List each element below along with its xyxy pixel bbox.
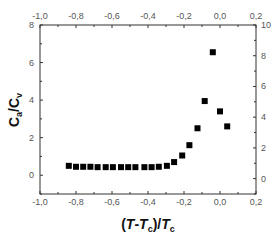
data-point-marker — [156, 164, 162, 170]
plot-border — [40, 25, 256, 194]
data-point-marker — [110, 164, 116, 170]
x-tick-label: -0,8 — [68, 197, 84, 207]
y-right-tick-label: 6 — [261, 81, 266, 91]
y-right-tick-label: 4 — [261, 112, 266, 122]
top-x-tick-label: -0,2 — [176, 11, 192, 21]
axis-ticks — [40, 25, 256, 194]
x-tick-label: -1,0 — [32, 197, 48, 207]
data-points — [66, 49, 230, 170]
y-left-tick-label: 6 — [29, 58, 34, 68]
data-point-marker — [186, 142, 192, 148]
data-point-marker — [164, 163, 170, 169]
data-point-marker — [73, 164, 79, 170]
data-point-marker — [118, 164, 124, 170]
data-point-marker — [87, 164, 93, 170]
data-point-marker — [202, 98, 208, 104]
data-point-marker — [95, 164, 101, 170]
data-point-marker — [125, 164, 131, 170]
top-x-tick-label: 0,0 — [214, 11, 227, 21]
data-point-marker — [149, 164, 155, 170]
y-right-tick-label: 0 — [261, 174, 266, 184]
data-point-marker — [210, 49, 216, 55]
top-x-tick-label: -0,6 — [104, 11, 120, 21]
y-left-tick-label: 2 — [29, 133, 34, 143]
top-x-tick-label: -0,4 — [140, 11, 156, 21]
data-point-marker — [66, 163, 72, 169]
data-point-marker — [217, 108, 223, 114]
data-point-marker — [195, 125, 201, 131]
y-right-tick-label: 10 — [261, 20, 271, 30]
data-point-marker — [80, 164, 86, 170]
y-right-tick-label: 2 — [261, 143, 266, 153]
chart: -1,0-1,0-0,8-0,8-0,6-0,6-0,4-0,4-0,2-0,2… — [0, 0, 277, 241]
y-left-tick-label: 4 — [29, 95, 34, 105]
x-tick-label: -0,2 — [176, 197, 192, 207]
plot-frame — [40, 25, 256, 194]
data-point-marker — [103, 164, 109, 170]
y-left-tick-label: 8 — [29, 20, 34, 30]
data-point-marker — [141, 164, 147, 170]
data-point-marker — [179, 153, 185, 159]
tick-labels: -1,0-1,0-0,8-0,8-0,6-0,6-0,4-0,4-0,2-0,2… — [29, 11, 271, 207]
data-point-marker — [171, 159, 177, 165]
y-right-tick-label: 8 — [261, 51, 266, 61]
x-tick-label: 0,2 — [250, 197, 263, 207]
data-point-marker — [132, 164, 138, 170]
data-point-marker — [224, 123, 230, 129]
y-left-tick-label: 0 — [29, 170, 34, 180]
x-axis-title: (T-Tc)/Tc — [121, 216, 175, 234]
x-tick-label: 0,0 — [214, 197, 227, 207]
x-tick-label: -0,6 — [104, 197, 120, 207]
top-x-tick-label: -0,8 — [68, 11, 84, 21]
y-axis-title: Ca/Cv — [6, 93, 24, 127]
top-x-tick-label: -1,0 — [32, 11, 48, 21]
x-tick-label: -0,4 — [140, 197, 156, 207]
